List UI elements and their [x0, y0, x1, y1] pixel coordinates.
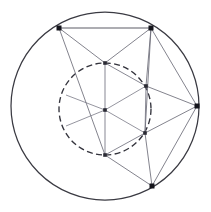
hex-edge-p2-p3 [145, 86, 146, 133]
chord-d-p4 [105, 155, 152, 186]
spoke-center-p3 [105, 110, 145, 133]
vertex-dot-b [149, 26, 154, 31]
node-dot-p4 [103, 153, 107, 157]
node-dot-center [103, 108, 107, 112]
vertex-dot-c [195, 104, 200, 109]
spoke-center-p2 [105, 86, 146, 110]
chord-d-p3 [145, 133, 152, 186]
outer-vertex-dots [57, 26, 200, 189]
hex-edge-p3-p4 [105, 133, 145, 155]
chord-b-p1 [105, 28, 151, 63]
chord-a-p1 [59, 28, 105, 63]
spoke-center-left-lower [66, 110, 105, 126]
chord-c-p2 [146, 86, 197, 106]
chord-b-p3 [145, 28, 151, 133]
inner-polygon-group [105, 63, 146, 155]
chord-group [59, 28, 197, 186]
vertex-dot-d [150, 184, 155, 189]
inner-node-dots [103, 61, 148, 157]
node-dot-p3 [143, 131, 147, 135]
hex-edge-p1-p2 [105, 63, 146, 86]
node-dot-p2 [144, 84, 148, 88]
geometry-figure-container [0, 0, 211, 212]
chord-a-p4 [59, 28, 105, 155]
geometry-diagram [0, 0, 211, 212]
vertex-dot-a [57, 26, 62, 31]
spoke-center-left-upper [66, 95, 105, 110]
node-dot-p1 [103, 61, 107, 65]
